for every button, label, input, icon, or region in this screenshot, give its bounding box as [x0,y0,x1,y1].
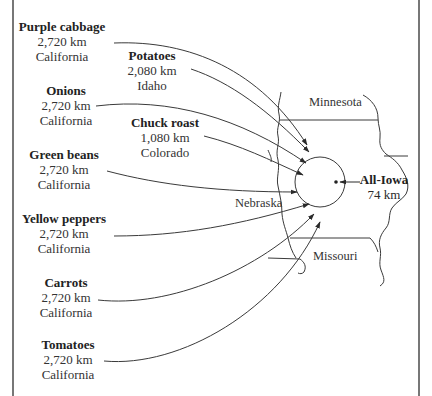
item-origin: California [19,49,105,64]
arrow-onions [96,104,306,163]
item-distance: 2,720 km [40,290,93,305]
item-origin: Idaho [127,78,176,93]
state-label-missouri: Missouri [313,249,357,264]
item-name: Carrots [40,275,93,290]
destination-all-iowa: All-Iowa 74 km [360,172,408,202]
arrow-green-beans [107,171,297,192]
item-yellow-peppers: Yellow peppers 2,720 km California [22,211,106,256]
iowa-center-dot [334,180,338,184]
item-origin: California [40,113,93,128]
item-tomatoes: Tomatoes 2,720 km California [42,337,95,382]
item-distance: 2,720 km [22,226,106,241]
item-name: Tomatoes [42,337,95,352]
kansas-nebraska-border [268,258,305,274]
food-miles-diagram: Purple cabbage 2,720 km California Onion… [0,0,432,396]
item-origin: Colorado [131,145,199,160]
item-onions: Onions 2,720 km California [40,83,93,128]
item-carrots: Carrots 2,720 km California [40,275,93,320]
item-green-beans: Green beans 2,720 km California [29,147,98,192]
destination-distance: 74 km [360,187,408,202]
state-label-nebraska: Nebraska [235,196,282,211]
item-distance: 2,720 km [42,352,95,367]
item-distance: 2,720 km [29,162,98,177]
item-origin: California [29,177,98,192]
item-name: Green beans [29,147,98,162]
item-name: Potatoes [127,48,176,63]
item-origin: California [42,367,95,382]
arrow-chuck-roast [204,136,303,175]
item-name: Onions [40,83,93,98]
item-origin: California [22,241,106,256]
item-chuck-roast: Chuck roast 1,080 km Colorado [131,115,199,160]
item-name: Yellow peppers [22,211,106,226]
item-distance: 2,080 km [127,63,176,78]
item-potatoes: Potatoes 2,080 km Idaho [127,48,176,93]
arrow-tomatoes [104,222,320,362]
item-distance: 2,720 km [19,34,105,49]
item-distance: 2,720 km [40,98,93,113]
destination-label: All-Iowa [360,172,408,187]
item-origin: California [40,305,93,320]
arrow-potatoes [191,69,309,152]
item-name: Purple cabbage [19,19,105,34]
item-purple-cabbage: Purple cabbage 2,720 km California [19,19,105,64]
state-label-minnesota: Minnesota [309,95,362,110]
item-name: Chuck roast [131,115,199,130]
item-distance: 1,080 km [131,130,199,145]
arrow-carrots [98,214,314,301]
